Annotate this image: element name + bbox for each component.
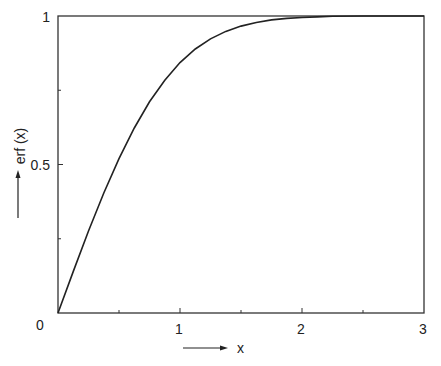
x-tick-label-1: 1 — [164, 322, 194, 336]
plot-frame — [58, 16, 424, 313]
chart-canvas — [0, 0, 441, 366]
y-ticks — [58, 90, 63, 239]
x-axis-arrow — [183, 346, 228, 351]
y-axis-label: erf (x) — [12, 128, 28, 165]
x-tick-label-3: 3 — [408, 322, 438, 336]
x-ticks — [119, 308, 363, 313]
x-axis-label: x — [237, 341, 244, 355]
origin-label: 0 — [36, 318, 44, 332]
x-tick-label-2: 2 — [286, 322, 316, 336]
erf-curve — [58, 16, 424, 313]
y-axis-label-wrap: erf (x) — [10, 118, 30, 298]
y-tick-label-1: 1 — [20, 10, 50, 24]
